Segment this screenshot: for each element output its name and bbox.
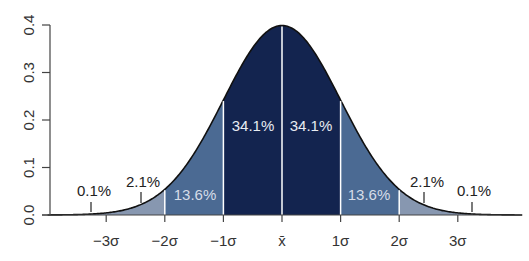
y-tick-label: 0.1 — [20, 157, 37, 178]
label-tail-left: 2.1% — [126, 173, 160, 190]
label-center-left: 34.1% — [232, 117, 275, 134]
label-center-right: 34.1% — [290, 117, 333, 134]
x-tick-label: 2σ — [390, 232, 408, 249]
x-tick-label: 3σ — [449, 232, 467, 249]
label-mid-right: 13.6% — [348, 186, 391, 203]
label-mid-left: 13.6% — [174, 186, 217, 203]
x-tick-label: −3σ — [93, 232, 120, 249]
x-tick-label: −2σ — [152, 232, 179, 249]
label-tail-right: 2.1% — [410, 173, 444, 190]
y-axis-ticks: 0.00.10.20.30.4 — [20, 15, 50, 226]
label-outer-left: 0.1% — [77, 182, 111, 199]
label-outer-right: 0.1% — [457, 182, 491, 199]
normal-distribution-chart: 0.00.10.20.30.4 −3σ−2σ−1σx̄1σ2σ3σ 0.1% 2… — [0, 0, 529, 261]
y-tick-label: 0.0 — [20, 205, 37, 226]
x-tick-label: −1σ — [210, 232, 237, 249]
y-tick-label: 0.3 — [20, 62, 37, 83]
x-tick-label: 1σ — [332, 232, 350, 249]
y-tick-label: 0.2 — [20, 110, 37, 131]
y-tick-label: 0.4 — [20, 15, 37, 36]
x-tick-label: x̄ — [278, 232, 286, 249]
x-axis-ticks: −3σ−2σ−1σx̄1σ2σ3σ — [93, 215, 467, 249]
